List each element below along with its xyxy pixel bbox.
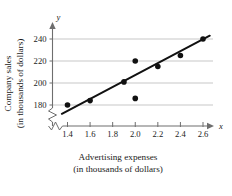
x-axis-break-zigzag [49, 122, 63, 130]
y-axis-caption: Company sales (in thousands of dollars) [3, 18, 26, 150]
regression-line [62, 36, 210, 114]
data-point-5 [155, 64, 161, 70]
x-tick-label-2.6: 2.6 [198, 129, 209, 139]
y-tick-label-240: 240 [34, 34, 47, 44]
x-tick-label-1.8: 1.8 [107, 129, 118, 139]
x-axis-caption-line2: (in thousands of dollars) [38, 164, 198, 176]
y-axis-caption-line1: Company sales [3, 18, 15, 150]
data-point-4 [132, 96, 138, 102]
y-tick-label-180: 180 [34, 100, 47, 110]
data-point-7 [200, 36, 206, 42]
y-axis-variable-label: y [56, 12, 61, 22]
y-axis-break-zigzag [49, 108, 57, 122]
data-point-1 [87, 98, 93, 104]
x-axis-variable-label: x [218, 121, 223, 131]
y-tick-label-200: 200 [34, 78, 47, 88]
x-axis-caption-line1: Advertising expenses [38, 152, 198, 164]
data-point-0 [65, 102, 71, 108]
x-axis-caption: Advertising expenses (in thousands of do… [38, 152, 198, 175]
y-axis-caption-line2: (in thousands of dollars) [14, 18, 26, 150]
x-tick-label-2.4: 2.4 [175, 129, 186, 139]
x-tick-label-2.0: 2.0 [130, 129, 141, 139]
x-tick-label-1.4: 1.4 [62, 129, 73, 139]
x-tick-label-1.6: 1.6 [85, 129, 96, 139]
x-tick-label-2.2: 2.2 [152, 129, 163, 139]
y-axis-arrowhead [49, 22, 55, 29]
scatter-plot-figure: 180200220240yx1.41.61.82.02.22.42.6 Adve… [0, 0, 232, 196]
y-tick-label-220: 220 [34, 56, 47, 66]
data-point-2 [121, 79, 127, 85]
data-point-3 [132, 58, 138, 64]
data-point-6 [178, 53, 184, 59]
